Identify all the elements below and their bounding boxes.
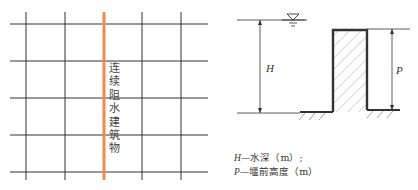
barrier-label: 连续阻水建筑物 (107, 62, 121, 156)
depth-symbol-H: H (266, 62, 274, 74)
water-level-icon (287, 14, 299, 20)
legend-item-H: H—水深（m）; (234, 151, 318, 165)
grid-lines (0, 0, 210, 190)
grid-plan-figure: 连续阻水建筑物 (0, 0, 210, 190)
weir-section-figure: H P H—水深（m）; P—堰前高度（m） (210, 0, 418, 190)
legend-item-P: P—堰前高度（m） (234, 165, 318, 179)
height-symbol-P: P (396, 64, 403, 76)
legend: H—水深（m）; P—堰前高度（m） (234, 151, 318, 179)
